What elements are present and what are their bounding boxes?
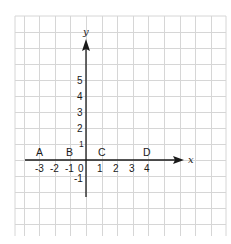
x-tick-label: 2 xyxy=(113,163,119,174)
x-tick-label: -2 xyxy=(50,163,59,174)
x-tick-label: 4 xyxy=(144,163,150,174)
y-tick-label: -1 xyxy=(74,173,83,184)
x-axis-name: x xyxy=(188,154,194,165)
y-tick-label: 2 xyxy=(77,123,83,134)
x-tick-label: -3 xyxy=(35,163,44,174)
x-tick-label: -1 xyxy=(65,163,74,174)
x-tick-label: 3 xyxy=(129,163,135,174)
y-tick-label: 4 xyxy=(77,91,83,102)
point-label-a: A xyxy=(36,146,43,158)
coordinate-plane: x y -3 -2 -1 0 1 2 3 4 5 4 3 2 1 -1 A B … xyxy=(0,0,231,244)
y-axis-name: y xyxy=(82,26,89,37)
y-tick-label: 5 xyxy=(77,75,83,86)
point-label-d: D xyxy=(143,146,151,158)
point-label-c: C xyxy=(98,146,106,158)
x-tick-label: 1 xyxy=(97,163,103,174)
point-label-b: B xyxy=(66,146,73,158)
y-tick-label: 1 xyxy=(79,139,84,149)
grid xyxy=(15,16,226,236)
y-tick-label: 3 xyxy=(77,107,83,118)
